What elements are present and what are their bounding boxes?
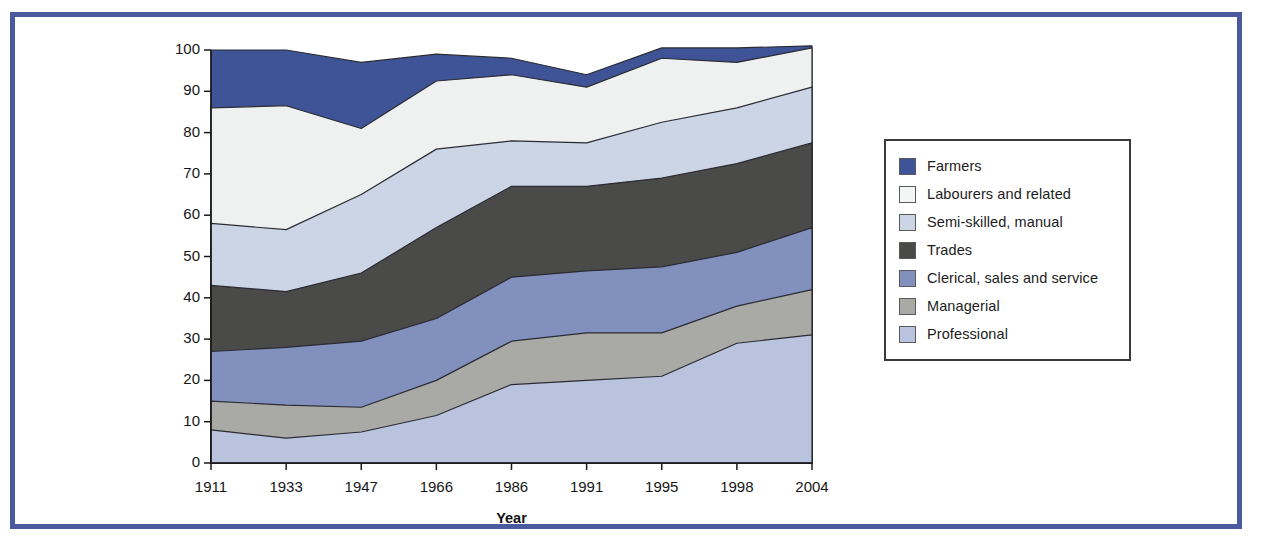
x-tick-label: 1998: [697, 478, 777, 495]
y-tick-label: 70: [158, 164, 200, 181]
y-tick-label: 40: [158, 288, 200, 305]
x-tick-label: 1966: [396, 478, 476, 495]
legend-item-semi-skilled-manual[interactable]: Semi-skilled, manual: [886, 208, 1129, 236]
y-tick-label: 20: [158, 370, 200, 387]
x-tick-label: 1933: [246, 478, 326, 495]
legend-item-label: Clerical, sales and service: [927, 270, 1098, 286]
legend-item-trades[interactable]: Trades: [886, 236, 1129, 264]
legend-item-managerial[interactable]: Managerial: [886, 292, 1129, 320]
chart-legend: FarmersLabourers and relatedSemi-skilled…: [884, 139, 1131, 361]
chart-figure: 0102030405060708090100 19111933194719661…: [0, 0, 1261, 552]
legend-item-labourers-and-related[interactable]: Labourers and related: [886, 180, 1129, 208]
legend-swatch-icon: [899, 326, 916, 343]
x-tick-label: 1991: [547, 478, 627, 495]
legend-item-label: Semi-skilled, manual: [927, 214, 1063, 230]
legend-item-label: Trades: [927, 242, 972, 258]
legend-item-label: Professional: [927, 326, 1008, 342]
legend-item-clerical-sales-and-service[interactable]: Clerical, sales and service: [886, 264, 1129, 292]
y-tick-label: 100: [158, 40, 200, 57]
x-tick-label: 1911: [171, 478, 251, 495]
y-tick-label: 10: [158, 412, 200, 429]
legend-swatch-icon: [899, 298, 916, 315]
y-tick-label: 60: [158, 205, 200, 222]
y-tick-label: 0: [158, 453, 200, 470]
y-tick-label: 30: [158, 329, 200, 346]
x-tick-label: 1995: [622, 478, 702, 495]
x-tick-label: 2004: [772, 478, 852, 495]
legend-swatch-icon: [899, 186, 916, 203]
x-axis-title: Year: [452, 510, 572, 526]
x-tick-label: 1986: [472, 478, 552, 495]
legend-item-label: Labourers and related: [927, 186, 1071, 202]
legend-item-label: Managerial: [927, 298, 1000, 314]
y-tick-label: 80: [158, 123, 200, 140]
y-tick-label: 50: [158, 247, 200, 264]
y-tick-label: 90: [158, 81, 200, 98]
legend-item-label: Farmers: [927, 158, 982, 174]
area-series-group: [211, 46, 812, 463]
legend-swatch-icon: [899, 270, 916, 287]
x-tick-label: 1947: [321, 478, 401, 495]
legend-swatch-icon: [899, 242, 916, 259]
legend-item-farmers[interactable]: Farmers: [886, 152, 1129, 180]
legend-item-professional[interactable]: Professional: [886, 320, 1129, 348]
legend-swatch-icon: [899, 158, 916, 175]
legend-swatch-icon: [899, 214, 916, 231]
